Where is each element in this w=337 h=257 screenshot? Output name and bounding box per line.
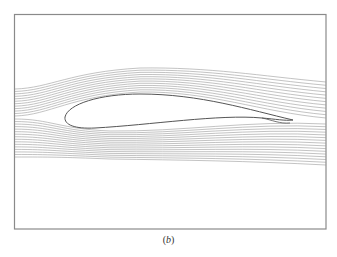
streamline-lower [15,129,326,138]
streamline-upper [15,79,326,101]
streamline-lower [15,152,326,160]
streamline-diagram [0,0,337,257]
streamline-upper [15,68,326,89]
streamline-lower [15,127,326,137]
streamline-lower [15,142,326,149]
figure-caption: (b) [0,234,337,245]
